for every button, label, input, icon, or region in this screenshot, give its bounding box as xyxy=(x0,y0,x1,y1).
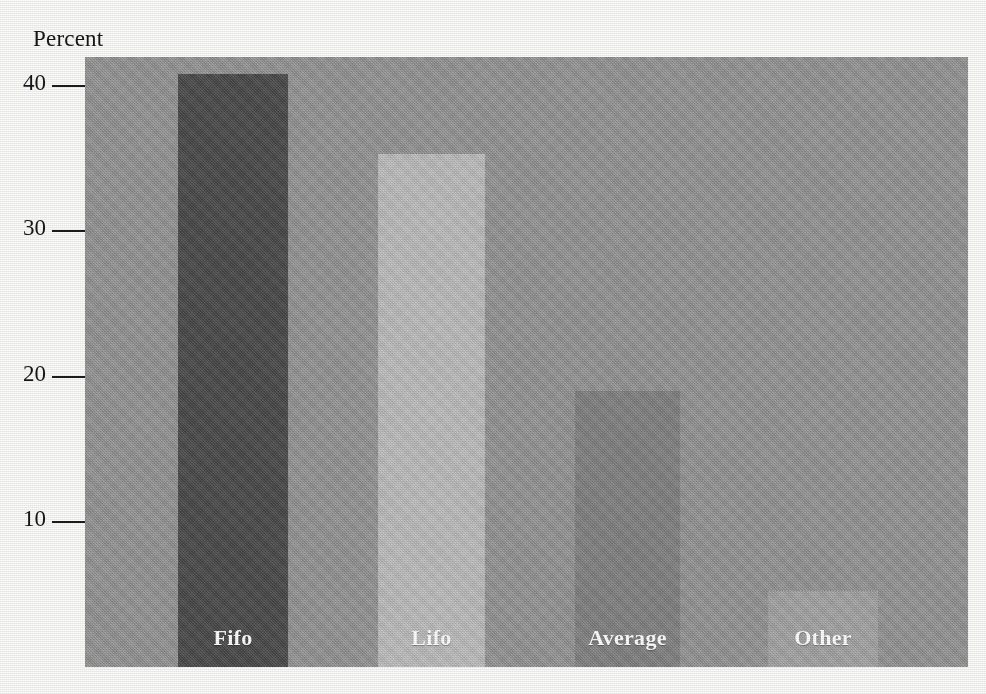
y-tick-mark-20 xyxy=(52,376,85,378)
bar-label-fifo: Fifo xyxy=(178,625,288,651)
bar-label-other: Other xyxy=(768,625,878,651)
bar-other: Other xyxy=(768,591,878,667)
bar-average: Average xyxy=(575,391,680,667)
plot-area: FifoLifoAverageOther xyxy=(85,57,968,667)
bar-texture xyxy=(378,154,485,667)
y-tick-mark-40 xyxy=(52,85,85,87)
bar-texture xyxy=(178,74,288,667)
y-tick-mark-30 xyxy=(52,230,85,232)
bar-lifo: Lifo xyxy=(378,154,485,667)
y-tick-label-10: 10 xyxy=(0,506,46,532)
bar-label-lifo: Lifo xyxy=(378,625,485,651)
y-tick-label-40: 40 xyxy=(0,70,46,96)
y-tick-mark-10 xyxy=(52,521,85,523)
bar-fifo: Fifo xyxy=(178,74,288,667)
y-tick-label-20: 20 xyxy=(0,361,46,387)
y-tick-label-30: 30 xyxy=(0,215,46,241)
y-axis-title: Percent xyxy=(33,26,103,52)
bar-label-average: Average xyxy=(575,625,680,651)
chart-figure: Percent 40302010 FifoLifoAverageOther xyxy=(0,0,986,694)
